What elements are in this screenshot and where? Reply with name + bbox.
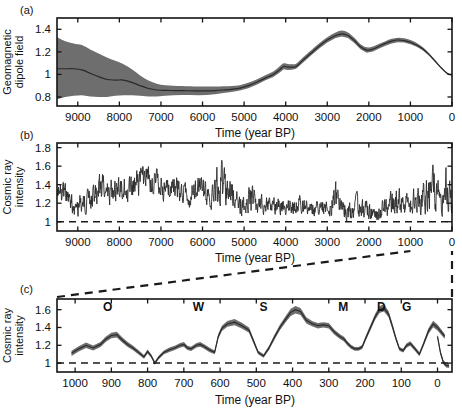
solar-minimum-label-m: M (338, 300, 348, 314)
three-panel-cosmic-ray-figure: (a)9000800070006000500040003000200010000… (0, 0, 462, 414)
y-tick-label: 1.6 (35, 160, 51, 172)
figure-container: (a)9000800070006000500040003000200010000… (0, 0, 462, 414)
panel-c-xlabel: Time (year BP) (215, 393, 295, 407)
x-tick-label: 4000 (273, 111, 299, 123)
x-tick-label: 6000 (190, 236, 216, 248)
x-tick-label: 3000 (314, 236, 340, 248)
x-tick-label: 5000 (231, 111, 257, 123)
x-tick-label: 300 (319, 377, 338, 389)
x-tick-label: 5000 (231, 236, 257, 248)
x-tick-label: 2000 (356, 236, 382, 248)
solar-minimum-label-s: S (260, 300, 268, 314)
y-tick-label: 1.4 (35, 179, 52, 191)
y-tick-label: 1.2 (35, 339, 51, 351)
x-tick-label: 100 (392, 377, 411, 389)
panel-c-ylabel: Cosmic rayintensity (1, 308, 25, 364)
panel-b-label: (b) (20, 129, 33, 141)
x-tick-label: 1000 (398, 111, 424, 123)
solar-minimum-label-w: W (193, 300, 205, 314)
panel-b-ylabel: Cosmic rayintensity (1, 159, 25, 215)
x-tick-label: 0 (434, 377, 440, 389)
y-tick-label: 1.2 (35, 197, 51, 209)
y-tick-label: 1.4 (35, 23, 52, 35)
solar-minimum-label-g: G (402, 300, 411, 314)
x-tick-label: 4000 (273, 236, 299, 248)
y-tick-label: 1 (45, 216, 51, 228)
panel-c-tail-curve (438, 336, 450, 365)
panel-b: (b)9000800070006000500040003000200010000… (1, 129, 455, 265)
x-tick-label: 0 (449, 111, 455, 123)
y-tick-label: 1.2 (35, 46, 51, 58)
x-tick-label: 9000 (65, 236, 91, 248)
x-tick-label: 800 (138, 377, 157, 389)
x-tick-label: 200 (355, 377, 374, 389)
x-tick-label: 1000 (398, 236, 424, 248)
x-tick-label: 2000 (356, 111, 382, 123)
x-tick-label: 700 (174, 377, 193, 389)
x-tick-label: 1000 (62, 377, 88, 389)
y-tick-label: 1.6 (35, 304, 51, 316)
x-tick-label: 7000 (148, 111, 174, 123)
x-tick-label: 8000 (107, 236, 133, 248)
panel-c-label: (c) (20, 283, 33, 295)
x-tick-label: 8000 (107, 111, 133, 123)
panel-c: (c)1000900800700600500400300200100011.21… (1, 283, 452, 407)
solar-minimum-label-d: D (377, 300, 386, 314)
y-tick-label: 1 (45, 68, 51, 80)
solar-minimum-label-o: O (103, 300, 112, 314)
x-tick-label: 6000 (190, 111, 216, 123)
x-tick-label: 600 (210, 377, 229, 389)
panel-b-xlabel: Time (year BP) (215, 251, 295, 265)
panel-a: (a)9000800070006000500040003000200010000… (1, 4, 455, 140)
panel-a-label: (a) (20, 4, 33, 16)
x-tick-label: 900 (102, 377, 121, 389)
y-tick-label: 1 (45, 357, 51, 369)
y-tick-label: 1.4 (35, 321, 52, 333)
y-tick-label: 0.8 (35, 91, 51, 103)
x-tick-label: 0 (449, 236, 455, 248)
x-tick-label: 400 (283, 377, 302, 389)
x-tick-label: 9000 (65, 111, 91, 123)
panel-a-xlabel: Time (year BP) (215, 126, 295, 140)
y-tick-label: 1.8 (35, 142, 51, 154)
panel-a-ylabel: Geomagneticdipole field (1, 29, 25, 95)
x-tick-label: 3000 (314, 111, 340, 123)
x-tick-label: 500 (247, 377, 266, 389)
panel-b-cosmic-ray-series (57, 160, 452, 221)
x-tick-label: 7000 (148, 236, 174, 248)
panel-c-mean-curve (72, 308, 445, 363)
